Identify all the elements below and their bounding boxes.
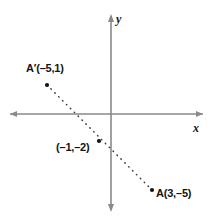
point-a-prime-marker [45, 83, 49, 87]
point-midpoint-marker [97, 139, 101, 143]
x-axis-left-arrowhead [10, 111, 17, 117]
x-axis-label: x [193, 121, 199, 136]
coordinate-plane-figure: A′(–5,1) (–1,–2) A(3,–5) y x [0, 0, 220, 224]
y-axis-label: y [116, 12, 121, 27]
x-axis-right-arrowhead [196, 111, 203, 117]
y-axis [108, 14, 114, 212]
point-a-marker [150, 188, 154, 192]
point-label-midpoint: (–1,–2) [56, 141, 89, 153]
segment-a-prime-to-a [47, 85, 152, 190]
y-axis-bottom-arrowhead [108, 204, 114, 212]
y-axis-top-arrowhead [108, 14, 114, 22]
point-label-a: A(3,–5) [156, 187, 191, 199]
x-axis [10, 111, 203, 117]
point-label-a-prime: A′(–5,1) [26, 62, 64, 74]
